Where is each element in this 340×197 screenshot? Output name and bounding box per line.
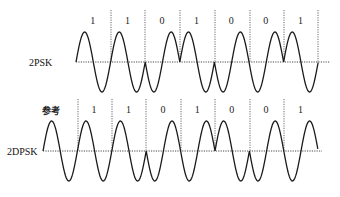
bit-label: 0: [160, 15, 165, 26]
bit-label: 0: [264, 104, 269, 115]
bit-label: 1: [90, 15, 95, 26]
bit-label: 1: [125, 15, 130, 26]
bit-label: 0: [263, 15, 268, 26]
2psk-panel: 1101001 2PSK: [29, 10, 330, 92]
2dpsk-panel: 1101001 2DPSK 参考: [7, 99, 322, 181]
2psk-bit-labels: 1101001: [90, 15, 303, 26]
bit-label: 1: [195, 104, 200, 115]
reference-label: 参考: [42, 105, 60, 116]
psk-dpsk-diagram: 1101001 2PSK 1101001 2DPSK 参考: [0, 0, 340, 197]
bit-label: 1: [194, 15, 199, 26]
2psk-label: 2PSK: [29, 57, 53, 68]
bit-label: 1: [92, 104, 97, 115]
2psk-symbol-boundaries: [111, 10, 318, 62]
bit-label: 0: [229, 104, 234, 115]
2dpsk-label: 2DPSK: [7, 146, 38, 157]
bit-label: 0: [160, 104, 165, 115]
bit-label: 1: [126, 104, 131, 115]
bit-label: 1: [298, 104, 303, 115]
2dpsk-symbol-boundaries: [78, 99, 284, 151]
bit-label: 0: [229, 15, 234, 26]
2dpsk-bit-labels: 1101001: [92, 104, 303, 115]
bit-label: 1: [298, 15, 303, 26]
